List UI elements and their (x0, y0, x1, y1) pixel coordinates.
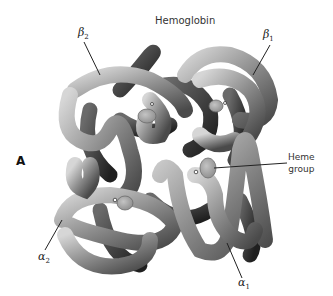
beta2-label: β2 (78, 26, 89, 41)
hemoglobin-figure: Hemoglobin A β2 β1 α2 α1 Heme group (0, 0, 333, 296)
heme-label-line1: Heme (288, 151, 315, 163)
alpha2-subscript: 2 (45, 257, 49, 265)
panel-letter: A (16, 154, 25, 168)
beta1-label: β1 (263, 28, 274, 43)
heme-label-line2: group (288, 163, 315, 175)
beta2-subscript: 2 (84, 33, 88, 41)
beta1-subscript: 1 (269, 35, 273, 43)
alpha1-label: α1 (238, 276, 250, 291)
heme-group-label: Heme group (288, 151, 315, 175)
figure-title: Hemoglobin (155, 15, 215, 26)
alpha1-subscript: 1 (245, 283, 249, 291)
hemoglobin-structure-illustration (0, 0, 333, 296)
beta2-leader-line (84, 42, 100, 75)
alpha2-label: α2 (38, 250, 50, 265)
